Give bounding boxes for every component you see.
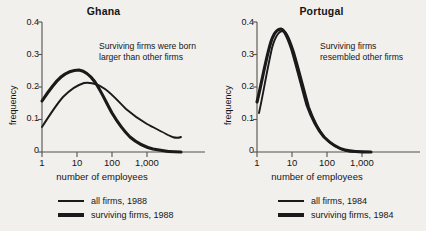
legend-line-icon bbox=[278, 200, 304, 202]
legend-line-icon bbox=[58, 213, 84, 216]
legend-label: surviving firms, 1988 bbox=[91, 210, 174, 220]
figure-root: Ghana frequency 0.4 0.3 0.2 0.1 0 1 10 1… bbox=[0, 0, 426, 231]
legend-item: all firms, 1984 bbox=[278, 194, 394, 208]
curve-surviving-firms bbox=[42, 70, 181, 152]
chart-panel-portugal: Portugal frequency 0.4 0.3 0.2 0.1 0 1 1… bbox=[213, 0, 426, 231]
curve-all-firms bbox=[259, 31, 371, 152]
legend-label: all firms, 1988 bbox=[91, 196, 147, 206]
legend: all firms, 1988 surviving firms, 1988 bbox=[58, 194, 174, 222]
legend-item: surviving firms, 1984 bbox=[278, 208, 394, 222]
legend-line-icon bbox=[58, 200, 84, 202]
chart-panel-ghana: Ghana frequency 0.4 0.3 0.2 0.1 0 1 10 1… bbox=[0, 0, 213, 231]
legend-line-icon bbox=[278, 213, 304, 216]
legend-label: all firms, 1984 bbox=[311, 196, 367, 206]
legend: all firms, 1984 surviving firms, 1984 bbox=[278, 194, 394, 222]
legend-label: surviving firms, 1984 bbox=[311, 210, 394, 220]
curve-surviving-firms bbox=[257, 29, 371, 152]
legend-item: all firms, 1988 bbox=[58, 194, 174, 208]
legend-item: surviving firms, 1988 bbox=[58, 208, 174, 222]
